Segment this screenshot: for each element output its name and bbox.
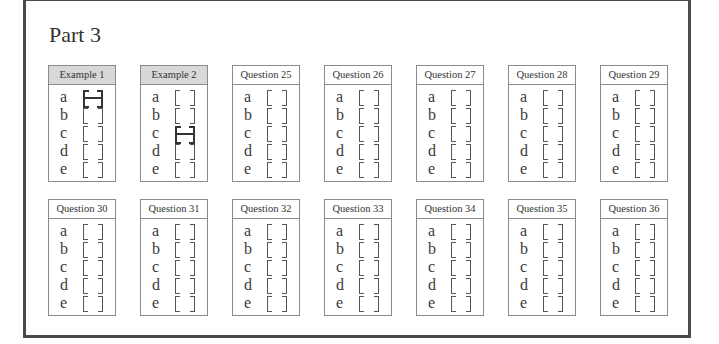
answer-checkbox[interactable] bbox=[175, 296, 195, 311]
answer-checkbox[interactable] bbox=[175, 126, 195, 141]
answer-checkbox[interactable] bbox=[451, 224, 471, 239]
left-bracket-icon bbox=[267, 144, 272, 160]
answer-checkbox[interactable] bbox=[451, 296, 471, 311]
answer-checkbox[interactable] bbox=[543, 108, 563, 123]
answer-checkbox[interactable] bbox=[267, 278, 287, 293]
answer-checkbox[interactable] bbox=[543, 126, 563, 141]
answer-checkbox[interactable] bbox=[83, 144, 103, 159]
answer-box: Question 31abcde bbox=[140, 199, 208, 316]
answer-checkbox[interactable] bbox=[635, 224, 655, 239]
answer-checkbox[interactable] bbox=[175, 108, 195, 123]
answer-checkbox[interactable] bbox=[83, 108, 103, 123]
answer-checkbox[interactable] bbox=[451, 278, 471, 293]
answer-checkbox[interactable] bbox=[83, 260, 103, 275]
option-letter: b bbox=[336, 240, 350, 258]
option-letter: a bbox=[520, 88, 534, 106]
answer-checkbox[interactable] bbox=[359, 260, 379, 275]
answer-checkbox[interactable] bbox=[543, 260, 563, 275]
answer-checkbox[interactable] bbox=[175, 242, 195, 257]
option-row: d bbox=[601, 142, 667, 160]
answer-checkbox[interactable] bbox=[267, 224, 287, 239]
answer-checkbox[interactable] bbox=[635, 278, 655, 293]
answer-checkbox[interactable] bbox=[175, 224, 195, 239]
answer-checkbox[interactable] bbox=[451, 144, 471, 159]
answer-box: Question 25abcde bbox=[232, 65, 300, 182]
option-row: c bbox=[141, 124, 207, 142]
left-bracket-icon bbox=[175, 90, 180, 106]
right-bracket-icon bbox=[282, 260, 287, 276]
answer-checkbox[interactable] bbox=[635, 162, 655, 177]
option-letter: c bbox=[244, 258, 258, 276]
answer-checkbox[interactable] bbox=[267, 162, 287, 177]
answer-checkbox[interactable] bbox=[635, 296, 655, 311]
answer-checkbox[interactable] bbox=[359, 108, 379, 123]
answer-checkbox[interactable] bbox=[175, 162, 195, 177]
right-bracket-icon bbox=[190, 108, 195, 124]
option-letter: b bbox=[244, 106, 258, 124]
right-bracket-icon bbox=[282, 242, 287, 258]
answer-checkbox[interactable] bbox=[359, 296, 379, 311]
answer-checkbox[interactable] bbox=[543, 296, 563, 311]
option-row: c bbox=[601, 124, 667, 142]
answer-checkbox[interactable] bbox=[543, 90, 563, 105]
answer-checkbox[interactable] bbox=[267, 296, 287, 311]
option-row: b bbox=[417, 106, 483, 124]
answer-checkbox[interactable] bbox=[359, 144, 379, 159]
answer-checkbox[interactable] bbox=[543, 278, 563, 293]
answer-checkbox[interactable] bbox=[543, 242, 563, 257]
answer-checkbox[interactable] bbox=[451, 126, 471, 141]
answer-checkbox[interactable] bbox=[267, 260, 287, 275]
answer-checkbox[interactable] bbox=[83, 126, 103, 141]
answer-checkbox[interactable] bbox=[267, 108, 287, 123]
answer-checkbox[interactable] bbox=[267, 90, 287, 105]
answer-checkbox[interactable] bbox=[83, 90, 103, 105]
answer-checkbox[interactable] bbox=[451, 162, 471, 177]
answer-checkbox[interactable] bbox=[359, 90, 379, 105]
answer-checkbox[interactable] bbox=[543, 144, 563, 159]
option-row: b bbox=[417, 240, 483, 258]
answer-checkbox[interactable] bbox=[83, 278, 103, 293]
left-bracket-icon bbox=[359, 144, 364, 160]
answer-checkbox[interactable] bbox=[267, 144, 287, 159]
answer-checkbox[interactable] bbox=[175, 278, 195, 293]
answer-checkbox[interactable] bbox=[359, 162, 379, 177]
answer-checkbox[interactable] bbox=[175, 90, 195, 105]
option-letter: e bbox=[152, 294, 166, 312]
option-row: a bbox=[325, 222, 391, 240]
option-row: d bbox=[509, 276, 575, 294]
answer-checkbox[interactable] bbox=[83, 242, 103, 257]
right-bracket-icon bbox=[98, 278, 103, 294]
answer-checkbox[interactable] bbox=[635, 144, 655, 159]
answer-checkbox[interactable] bbox=[175, 260, 195, 275]
answer-checkbox[interactable] bbox=[175, 144, 195, 159]
answer-box: Example 2abcde bbox=[140, 65, 208, 182]
answer-checkbox[interactable] bbox=[635, 260, 655, 275]
answer-checkbox[interactable] bbox=[83, 296, 103, 311]
answer-checkbox[interactable] bbox=[359, 242, 379, 257]
answer-checkbox[interactable] bbox=[543, 224, 563, 239]
option-row: e bbox=[49, 294, 115, 312]
option-row: d bbox=[233, 142, 299, 160]
answer-checkbox[interactable] bbox=[635, 90, 655, 105]
answer-checkbox[interactable] bbox=[451, 242, 471, 257]
answer-checkbox[interactable] bbox=[267, 242, 287, 257]
option-row: e bbox=[325, 294, 391, 312]
answer-checkbox[interactable] bbox=[635, 108, 655, 123]
answer-checkbox[interactable] bbox=[451, 108, 471, 123]
answer-checkbox[interactable] bbox=[451, 260, 471, 275]
answer-checkbox[interactable] bbox=[83, 224, 103, 239]
right-bracket-icon bbox=[466, 296, 471, 312]
answer-checkbox[interactable] bbox=[451, 90, 471, 105]
answer-checkbox[interactable] bbox=[359, 224, 379, 239]
answer-checkbox[interactable] bbox=[359, 126, 379, 141]
answer-checkbox[interactable] bbox=[267, 126, 287, 141]
option-row: e bbox=[141, 160, 207, 178]
answer-checkbox[interactable] bbox=[635, 126, 655, 141]
answer-checkbox[interactable] bbox=[83, 162, 103, 177]
answer-checkbox[interactable] bbox=[359, 278, 379, 293]
answer-checkbox[interactable] bbox=[635, 242, 655, 257]
left-bracket-icon bbox=[543, 108, 548, 124]
right-bracket-icon bbox=[374, 90, 379, 106]
option-letter: e bbox=[336, 160, 350, 178]
answer-checkbox[interactable] bbox=[543, 162, 563, 177]
